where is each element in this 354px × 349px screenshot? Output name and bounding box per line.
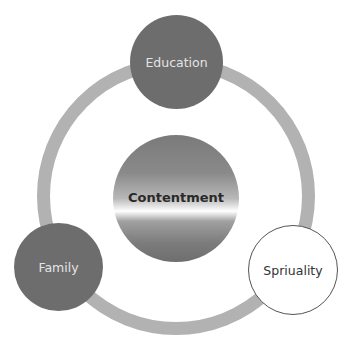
- node-family: Family: [14, 223, 103, 311]
- node-education-label: Education: [145, 55, 207, 70]
- node-spirituality-label: Spriuality: [263, 263, 322, 278]
- node-family-label: Family: [38, 260, 78, 275]
- node-education: Education: [130, 15, 223, 109]
- center-node-contentment: Contentment: [113, 135, 239, 262]
- center-node-label: Contentment: [128, 190, 224, 205]
- node-spirituality: Spriuality: [248, 225, 338, 315]
